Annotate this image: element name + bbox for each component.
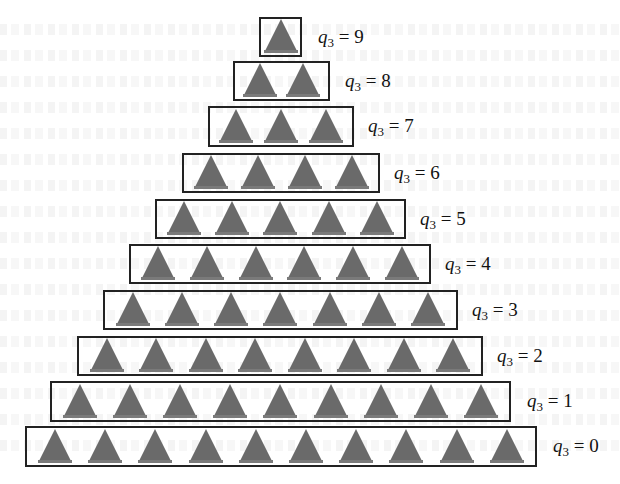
label-equals: = <box>543 390 563 411</box>
triangle-icon <box>219 109 253 143</box>
triangle-icon <box>288 155 322 189</box>
label-subscript: 3 <box>563 444 570 459</box>
triangle-icon <box>239 246 273 280</box>
triangle-icon <box>287 246 321 280</box>
triangle-icon <box>335 155 369 189</box>
label-variable: q <box>345 70 355 91</box>
triangle-icon <box>38 429 72 463</box>
triangle-icon <box>414 384 448 418</box>
row-label: q3 = 7 <box>368 115 414 137</box>
row-label: q3 = 4 <box>445 253 491 275</box>
row-label: q3 = 3 <box>472 299 518 321</box>
row-label: q3 = 6 <box>394 162 440 184</box>
row-label: q3 = 2 <box>497 345 543 367</box>
triangle-icon <box>214 292 248 326</box>
triangle-icon <box>90 338 124 372</box>
triangle-box <box>25 426 537 467</box>
triangle-icon <box>189 338 223 372</box>
triangle-icon <box>116 292 150 326</box>
label-variable: q <box>527 390 537 411</box>
label-subscript: 3 <box>404 171 411 186</box>
triangle-icon <box>263 384 297 418</box>
label-subscript: 3 <box>430 217 437 232</box>
row-label: q3 = 0 <box>553 435 599 457</box>
label-variable: q <box>368 115 378 136</box>
triangle-icon <box>165 292 199 326</box>
label-value: 3 <box>508 299 518 320</box>
triangle-icon <box>241 155 275 189</box>
label-value: 6 <box>430 162 440 183</box>
label-equals: = <box>410 162 430 183</box>
label-variable: q <box>553 435 563 456</box>
label-value: 9 <box>354 26 364 47</box>
triangle-icon <box>490 429 524 463</box>
triangle-box <box>50 381 511 422</box>
bleed-line <box>0 24 620 35</box>
label-subscript: 3 <box>378 124 385 139</box>
triangle-icon <box>138 429 172 463</box>
label-equals: = <box>384 115 404 136</box>
triangle-box <box>103 290 458 330</box>
label-value: 4 <box>481 253 491 274</box>
triangle-icon <box>360 201 394 235</box>
label-value: 1 <box>563 390 573 411</box>
row-label: q3 = 1 <box>527 390 573 412</box>
triangle-icon <box>194 155 228 189</box>
label-variable: q <box>318 26 328 47</box>
triangle-box <box>182 153 380 193</box>
triangle-icon <box>440 429 474 463</box>
triangle-icon <box>238 338 272 372</box>
triangle-icon <box>88 429 122 463</box>
triangle-icon <box>364 384 398 418</box>
label-value: 2 <box>533 345 543 366</box>
triangle-box <box>129 244 431 284</box>
triangle-icon <box>464 384 498 418</box>
triangle-icon <box>288 338 322 372</box>
label-variable: q <box>394 162 404 183</box>
label-equals: = <box>361 70 381 91</box>
label-equals: = <box>461 253 481 274</box>
row-label: q3 = 8 <box>345 70 391 92</box>
label-variable: q <box>445 253 455 274</box>
label-subscript: 3 <box>328 35 335 50</box>
triangle-icon <box>190 246 224 280</box>
triangle-box <box>77 336 483 376</box>
label-subscript: 3 <box>455 262 462 277</box>
triangle-icon <box>113 384 147 418</box>
label-variable: q <box>472 299 482 320</box>
triangle-icon <box>313 292 347 326</box>
label-equals: = <box>488 299 508 320</box>
label-equals: = <box>334 26 354 47</box>
triangle-icon <box>286 63 320 97</box>
label-value: 8 <box>381 70 391 91</box>
triangle-icon <box>314 384 348 418</box>
triangle-icon <box>263 292 297 326</box>
label-subscript: 3 <box>537 399 544 414</box>
triangle-icon <box>243 63 277 97</box>
triangle-icon <box>362 292 396 326</box>
label-equals: = <box>569 435 589 456</box>
row-label: q3 = 9 <box>318 26 364 48</box>
triangle-icon <box>264 109 298 143</box>
triangle-icon <box>312 201 346 235</box>
triangle-icon <box>309 109 343 143</box>
triangle-box <box>259 17 302 57</box>
triangle-icon <box>385 246 419 280</box>
label-variable: q <box>497 345 507 366</box>
bleed-line <box>0 50 620 61</box>
label-variable: q <box>420 208 430 229</box>
row-label: q3 = 5 <box>420 208 466 230</box>
triangle-icon <box>163 384 197 418</box>
triangle-icon <box>411 292 445 326</box>
triangle-icon <box>213 384 247 418</box>
triangle-icon <box>167 201 201 235</box>
label-equals: = <box>436 208 456 229</box>
triangle-box <box>233 61 330 101</box>
triangle-box <box>208 106 354 147</box>
label-value: 5 <box>456 208 466 229</box>
triangle-icon <box>215 201 249 235</box>
label-subscript: 3 <box>355 79 362 94</box>
triangle-icon <box>289 429 323 463</box>
label-subscript: 3 <box>482 308 489 323</box>
label-value: 0 <box>589 435 599 456</box>
